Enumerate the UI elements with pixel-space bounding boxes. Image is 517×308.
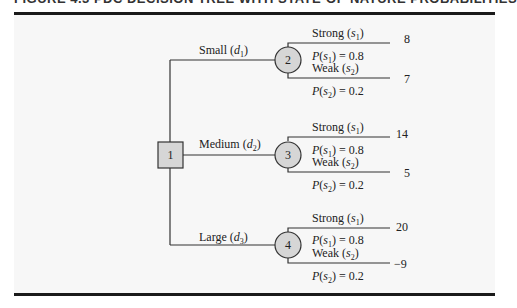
state-label: Weak (s2)	[312, 61, 359, 77]
payoff-value: 8	[404, 32, 410, 46]
decision-label-large: Large (d3)	[199, 230, 248, 246]
outcome-group-node-3: Strong (s1) P(s1) = 0.8 Weak (s2) P(s2) …	[311, 120, 410, 194]
payoff-value: 7	[404, 72, 410, 86]
probability-label: P(s2) = 0.2	[311, 84, 364, 100]
decision-node-label: 1	[168, 148, 174, 162]
chance-node-label: 2	[285, 53, 291, 67]
payoff-value: −9	[394, 257, 407, 271]
probability-label: P(s2) = 0.2	[311, 269, 364, 285]
state-label: Strong (s1)	[312, 120, 364, 136]
chance-node-label: 3	[285, 148, 291, 162]
payoff-value: 5	[404, 166, 410, 180]
decision-label-small: Small (d1)	[199, 43, 248, 59]
state-label: Weak (s2)	[312, 155, 359, 171]
chance-node-label: 4	[285, 238, 291, 252]
chance-node-3: 3	[275, 142, 301, 168]
chance-node-4: 4	[275, 232, 301, 258]
state-label: Strong (s1)	[312, 211, 364, 227]
state-label: Weak (s2)	[312, 246, 359, 262]
outcome-group-node-2: Strong (s1) P(s1) = 0.8 Weak (s2) P(s2) …	[311, 26, 410, 100]
outcome-group-node-4: Strong (s1) P(s1) = 0.8 Weak (s2) P(s2) …	[311, 211, 408, 285]
payoff-value: 14	[396, 127, 408, 141]
state-label: Strong (s1)	[312, 26, 364, 42]
payoff-value: 20	[396, 220, 408, 234]
decision-label-medium: Medium (d2)	[199, 137, 261, 153]
probability-label: P(s2) = 0.2	[311, 178, 364, 194]
chance-node-2: 2	[275, 47, 301, 73]
decision-node-1: 1	[158, 142, 183, 168]
